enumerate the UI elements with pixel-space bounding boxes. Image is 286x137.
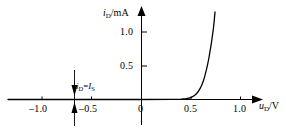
y-axis-arrowhead	[138, 6, 146, 16]
x-axis-title: uD/V	[259, 101, 279, 111]
y-tick-label-1.0: 1.0	[120, 27, 133, 37]
x-axis-title-subscript: D	[264, 105, 269, 113]
annotation-value-subscript: S	[91, 85, 95, 92]
plot-canvas	[0, 0, 286, 137]
y-axis-title: iD/mA	[103, 8, 129, 18]
diode-curve	[8, 12, 215, 100]
saturation-arrow-up-icon	[72, 102, 78, 113]
y-tick-label-0.5: 0.5	[120, 61, 133, 71]
x-tick-label--1.0: –1.0	[29, 104, 47, 114]
y-axis-title-unit: /mA	[111, 7, 129, 18]
y-axis-title-subscript: D	[106, 12, 111, 20]
x-tick-label--0.5: –0.5	[79, 104, 97, 114]
diode-iv-characteristic-figure: iD/mA uD/V 1.0 0.5 –1.0 –0.5 0 0.5 1.0 i…	[0, 0, 286, 137]
x-axis-title-unit: /V	[269, 100, 279, 111]
saturation-current-annotation: iD=IS	[76, 82, 95, 91]
annotation-current-subscript: D	[79, 85, 84, 92]
x-tick-label-1.0: 1.0	[233, 104, 246, 114]
x-tick-label-0.5: 0.5	[184, 104, 197, 114]
x-tick-label-0: 0	[138, 104, 143, 114]
